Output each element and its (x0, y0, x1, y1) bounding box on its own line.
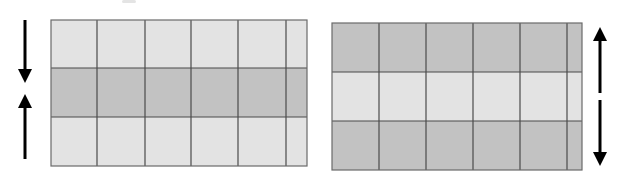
arrow-up-icon (18, 94, 32, 159)
right-row-top (332, 23, 582, 72)
arrow-up-icon (593, 27, 607, 93)
right-row-bottom (332, 121, 582, 170)
left-row-top (51, 20, 307, 68)
right-grid-panel (332, 23, 582, 170)
figure-canvas (0, 0, 619, 178)
left-grid-panel (51, 20, 307, 166)
arrow-down-icon (18, 20, 32, 83)
left-converging-arrows (18, 20, 32, 159)
right-diverging-arrows (593, 27, 607, 166)
left-row-middle (51, 68, 307, 117)
left-row-bottom (51, 117, 307, 166)
right-row-middle (332, 72, 582, 121)
arrow-down-icon (593, 100, 607, 166)
